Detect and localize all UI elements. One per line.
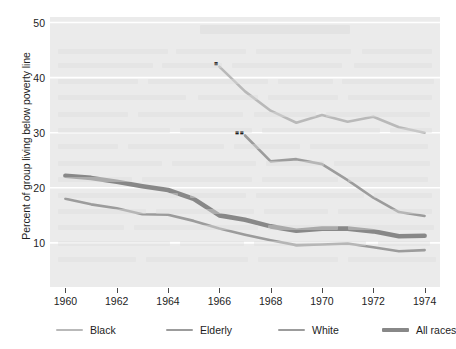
chart-legend: BlackElderlyWhiteAll races	[56, 322, 446, 342]
x-tick-mark	[322, 288, 323, 293]
legend-swatch-icon	[278, 329, 305, 332]
x-tick-mark	[271, 288, 272, 293]
x-tick-mark	[219, 288, 220, 293]
legend-label: Elderly	[200, 325, 232, 336]
x-tick-label: 1968	[251, 296, 291, 307]
legend-swatch-icon	[166, 329, 193, 332]
legend-item-black[interactable]: Black	[56, 322, 116, 338]
legend-item-all-races[interactable]: All races	[382, 322, 456, 338]
x-tick-label: 1964	[148, 296, 188, 307]
x-tick-label: 1962	[97, 296, 137, 307]
legend-label: Black	[90, 325, 116, 336]
x-tick-label: 1966	[199, 296, 239, 307]
x-tick-mark	[373, 288, 374, 293]
x-tick-mark	[425, 288, 426, 293]
x-tick-label: 1974	[405, 296, 445, 307]
legend-label: All races	[416, 325, 456, 336]
x-tick-label: 1970	[302, 296, 342, 307]
x-tick-mark	[168, 288, 169, 293]
x-tick-mark	[65, 288, 66, 293]
legend-label: White	[312, 325, 339, 336]
x-tick-label: 1960	[45, 296, 85, 307]
legend-swatch-icon	[56, 329, 83, 332]
legend-item-white[interactable]: White	[278, 322, 339, 338]
x-tick-label: 1972	[353, 296, 393, 307]
x-tick-mark	[117, 288, 118, 293]
legend-swatch-icon	[382, 328, 409, 333]
legend-item-elderly[interactable]: Elderly	[166, 322, 232, 338]
